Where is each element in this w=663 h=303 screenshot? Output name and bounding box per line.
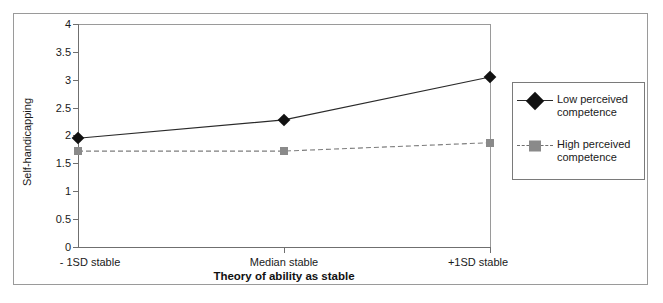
y-tick-label: 0.5	[0, 214, 71, 225]
x-axis-title: Theory of ability as stable	[78, 270, 490, 282]
x-tick-label-3: +1SD stable	[448, 256, 508, 268]
x-tick-label-1: - 1SD stable	[60, 256, 121, 268]
data-point-square	[280, 147, 288, 155]
y-tick-label: 3	[0, 75, 71, 86]
y-tick-label: 1	[0, 186, 71, 197]
legend-item-high-perceived-competence[interactable]: High perceived competence	[513, 138, 646, 164]
y-tick-label: 3.5	[0, 47, 71, 58]
figure-container: 4 3.5 3 2.5 2 1.5 1 0.5 0 - 1SD stable M…	[0, 0, 663, 303]
legend-item-low-perceived-competence[interactable]: Low perceived competence	[513, 93, 646, 119]
plot-top-border	[78, 24, 491, 25]
legend-swatch-square	[513, 138, 557, 154]
legend-label: Low perceived competence	[557, 93, 643, 119]
y-tick-label: 2.5	[0, 103, 71, 114]
y-tick-label: 2	[0, 130, 71, 141]
x-tick-label-2: Median stable	[250, 256, 319, 268]
y-tick-label: 4	[0, 19, 71, 30]
data-point-square	[74, 147, 82, 155]
y-axis-title: Self-handicapping	[21, 0, 33, 62]
y-axis-title-text: Self-handicapping	[21, 62, 33, 222]
data-point-square	[486, 139, 494, 147]
y-tick-label: 0	[0, 242, 71, 253]
legend-label: High perceived competence	[557, 138, 643, 164]
legend-swatch-diamond	[513, 93, 557, 109]
plot-right-border	[490, 24, 491, 248]
y-tick-label: 1.5	[0, 158, 71, 169]
legend: Low perceived competence High perceived …	[512, 82, 645, 180]
